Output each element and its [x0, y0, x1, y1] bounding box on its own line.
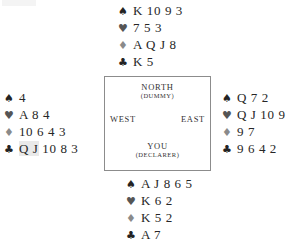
club-icon: ♣ [126, 227, 141, 244]
hand-east-spades: Q 7 2 [237, 89, 269, 106]
hand-south-clubs: A 7 [141, 226, 161, 243]
hand-south-hearts: K 6 2 [141, 192, 173, 209]
hand-west-spades-row: ♠ 4 [4, 89, 78, 106]
spade-icon: ♠ [222, 90, 237, 107]
hand-north-clubs-row: ♣ K 5 [118, 53, 183, 70]
compass-label-north: NORTH [105, 82, 210, 92]
hand-west-clubs-rest: 10 8 3 [39, 141, 79, 156]
diamond-icon: ♦ [118, 37, 133, 54]
heart-icon: ♥ [126, 193, 141, 210]
hand-south-diamonds-row: ♦ K 5 2 [126, 209, 193, 226]
club-icon: ♣ [4, 141, 19, 158]
hand-north-hearts: 7 5 3 [133, 19, 162, 36]
hand-east-hearts: Q J 10 9 [237, 106, 286, 123]
heart-icon: ♥ [118, 20, 133, 37]
spade-icon: ♠ [118, 3, 133, 20]
hand-north-diamonds: A Q J 8 [133, 36, 177, 53]
compass-label-south-role: (DECLARER) [105, 151, 210, 158]
hand-west-spades: 4 [19, 89, 26, 106]
hand-south-hearts-row: ♥ K 6 2 [126, 192, 193, 209]
hand-south: ♠ A J 8 6 5 ♥ K 6 2 ♦ K 5 2 ♣ A 7 [126, 175, 193, 243]
hand-north-clubs: K 5 [133, 53, 154, 70]
hand-north-hearts-row: ♥ 7 5 3 [118, 19, 183, 36]
hand-east-clubs: 9 6 4 2 [237, 140, 277, 157]
hand-east-diamonds: 9 7 [237, 123, 255, 140]
club-icon: ♣ [118, 54, 133, 71]
hand-south-spades: A J 8 6 5 [141, 175, 193, 192]
hand-west-diamonds: 10 6 4 3 [19, 123, 66, 140]
hand-east-clubs-row: ♣ 9 6 4 2 [222, 140, 286, 157]
hand-west-clubs: Q J 10 8 3 [19, 140, 78, 157]
hand-south-spades-row: ♠ A J 8 6 5 [126, 175, 193, 192]
hand-west-hearts: A 8 4 [19, 106, 50, 123]
club-icon: ♣ [222, 141, 237, 158]
diamond-icon: ♦ [126, 210, 141, 227]
heart-icon: ♥ [4, 107, 19, 124]
heart-icon: ♥ [222, 107, 237, 124]
compass-label-north-role: (DUMMY) [105, 92, 210, 99]
hand-west-clubs-highlight: Q J [19, 141, 39, 156]
hand-west-diamonds-row: ♦ 10 6 4 3 [4, 123, 78, 140]
hand-north-spades-row: ♠ K 10 9 3 [118, 2, 183, 19]
diamond-icon: ♦ [222, 124, 237, 141]
hand-east-hearts-row: ♥ Q J 10 9 [222, 106, 286, 123]
hand-east-diamonds-row: ♦ 9 7 [222, 123, 286, 140]
hand-north-diamonds-row: ♦ A Q J 8 [118, 36, 183, 53]
hand-east: ♠ Q 7 2 ♥ Q J 10 9 ♦ 9 7 ♣ 9 6 4 2 [222, 89, 286, 157]
hand-east-spades-row: ♠ Q 7 2 [222, 89, 286, 106]
compass-box: NORTH (DUMMY) WEST EAST YOU (DECLARER) [104, 76, 211, 171]
hand-south-diamonds: K 5 2 [141, 209, 173, 226]
hand-west: ♠ 4 ♥ A 8 4 ♦ 10 6 4 3 ♣ Q J 10 8 3 [4, 89, 78, 157]
hand-west-hearts-row: ♥ A 8 4 [4, 106, 78, 123]
scan-artifact [2, 0, 36, 6]
compass-label-west: WEST [110, 114, 136, 124]
diamond-icon: ♦ [4, 124, 19, 141]
compass-label-south: YOU [105, 141, 210, 151]
hand-north: ♠ K 10 9 3 ♥ 7 5 3 ♦ A Q J 8 ♣ K 5 [118, 2, 183, 70]
compass-label-east: EAST [181, 114, 205, 124]
spade-icon: ♠ [4, 90, 19, 107]
hand-south-clubs-row: ♣ A 7 [126, 226, 193, 243]
spade-icon: ♠ [126, 176, 141, 193]
hand-north-spades: K 10 9 3 [133, 2, 183, 19]
hand-west-clubs-row: ♣ Q J 10 8 3 [4, 140, 78, 157]
